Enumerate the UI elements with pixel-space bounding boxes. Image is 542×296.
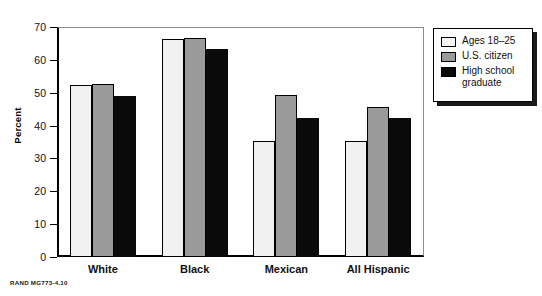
y-axis-tick-label: 60 xyxy=(2,54,46,66)
bar xyxy=(367,107,389,257)
y-axis-tick xyxy=(50,60,57,61)
bar-group xyxy=(162,27,228,257)
bar xyxy=(253,141,275,257)
bar xyxy=(92,84,114,257)
bar xyxy=(206,49,228,257)
x-axis-category-label: Mexican xyxy=(265,263,308,275)
legend-item-citizen: U.S. citizen xyxy=(441,50,532,62)
light-swatch-icon xyxy=(441,37,456,47)
y-axis-tick xyxy=(50,257,57,258)
bar-chart-figure: Percent 010203040506070 WhiteBlackMexica… xyxy=(0,0,542,296)
bar xyxy=(297,118,319,257)
x-axis-category-label: White xyxy=(88,263,118,275)
bar-group xyxy=(345,27,411,257)
bar xyxy=(184,38,206,257)
x-axis-category-label: Black xyxy=(180,263,209,275)
y-axis-tick xyxy=(50,158,57,159)
bar xyxy=(275,95,297,257)
bar-group xyxy=(253,27,319,257)
y-axis-tick-label: 30 xyxy=(2,152,46,164)
bar xyxy=(70,85,92,258)
x-axis-category-label: All Hispanic xyxy=(347,263,410,275)
legend-item-hs-graduate: High school graduate xyxy=(441,65,532,88)
legend-label: High school graduate xyxy=(462,65,514,88)
bar-group xyxy=(70,27,136,257)
y-axis-tick-label: 70 xyxy=(2,21,46,33)
source-note: RAND MG773-4.10 xyxy=(10,279,68,286)
bars-layer xyxy=(57,27,424,257)
y-axis-tick xyxy=(50,191,57,192)
y-axis-tick xyxy=(50,126,57,127)
y-axis-tick xyxy=(50,93,57,94)
y-axis-tick xyxy=(50,27,57,28)
legend-item-ages: Ages 18–25 xyxy=(441,35,532,47)
y-axis-tick-label: 20 xyxy=(2,185,46,197)
black-swatch-icon xyxy=(441,67,456,77)
bar xyxy=(162,39,184,258)
gray-swatch-icon xyxy=(441,52,456,62)
legend-label: U.S. citizen xyxy=(462,50,513,62)
chart-legend: Ages 18–25 U.S. citizen High school grad… xyxy=(433,28,533,102)
y-axis-tick-label: 40 xyxy=(2,120,46,132)
bar xyxy=(345,141,367,257)
legend-label: Ages 18–25 xyxy=(462,35,515,47)
bar xyxy=(114,96,136,257)
y-axis-tick-label: 0 xyxy=(2,251,46,263)
y-axis-tick-label: 10 xyxy=(2,218,46,230)
y-axis-tick-label: 50 xyxy=(2,87,46,99)
bar xyxy=(389,118,411,257)
y-axis-tick xyxy=(50,224,57,225)
